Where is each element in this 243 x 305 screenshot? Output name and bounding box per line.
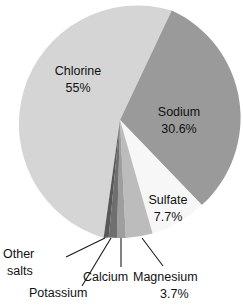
calcium-label: Calcium [83,270,128,284]
sodium-label-name: Sodium [158,105,200,119]
leader-line-other-salts [66,238,105,257]
magnesium-label-percent: 3.7% [160,287,189,301]
callout-other-salts: Other salts [3,247,34,278]
sulfate-label-name: Sulfate [149,193,188,207]
other-salts-label-line2: salts [7,264,33,278]
pie-slices-group [19,5,241,238]
potassium-label: Potassium [29,286,87,300]
chlorine-label-percent: 55% [65,81,90,95]
sulfate-label-percent: 7.7% [154,210,183,224]
pie-chart-figure: Chlorine 55% Sodium 30.6% Sulfate 7.7% O… [0,0,243,305]
magnesium-label-name: Magnesium [133,270,198,284]
leader-line-magnesium [142,238,163,266]
other-salts-label-line1: Other [3,247,34,261]
pie-chart-svg: Chlorine 55% Sodium 30.6% Sulfate 7.7% O… [0,0,243,305]
sodium-label-percent: 30.6% [161,122,196,136]
callout-magnesium: Magnesium 3.7% [133,270,198,301]
chlorine-label-name: Chlorine [55,64,102,78]
